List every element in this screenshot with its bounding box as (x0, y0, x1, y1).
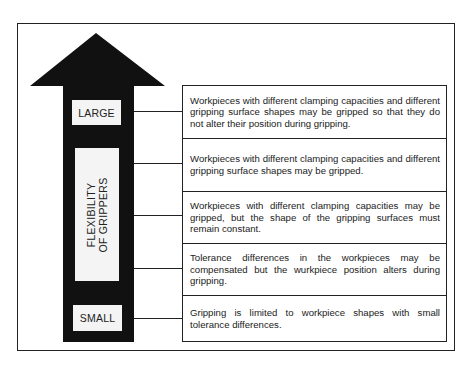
connector-line (134, 163, 182, 164)
flexibility-axis-label: FLEXIBILITY OF GRIPPERS (75, 148, 119, 281)
level-row: Tolerance differences in the workpieces … (183, 243, 446, 295)
level-description: Workpieces with different clamping capac… (190, 200, 440, 235)
level-description: Workpieces with different clamping capac… (190, 95, 440, 130)
connector-line (134, 268, 182, 269)
connector-line (134, 215, 182, 216)
small-label: SMALL (73, 305, 122, 331)
connector-line (134, 318, 182, 319)
large-label: LARGE (72, 100, 121, 125)
level-description: Tolerance differences in the workpieces … (190, 252, 440, 287)
connector-line (134, 111, 182, 112)
level-row: Workpieces with different clamping capac… (183, 138, 446, 191)
level-row-large: Workpieces with different clamping capac… (183, 86, 446, 138)
level-row: Workpieces with different clamping capac… (183, 191, 446, 243)
level-descriptions: Workpieces with different clamping capac… (182, 85, 447, 342)
level-description: Gripping is limited to workpiece shapes … (190, 307, 440, 330)
level-description: Workpieces with different clamping capac… (190, 153, 440, 176)
level-row-small: Gripping is limited to workpiece shapes … (183, 295, 446, 341)
axis-label-line1: FLEXIBILITY (85, 177, 97, 252)
axis-label-line2: OF GRIPPERS (97, 177, 109, 252)
